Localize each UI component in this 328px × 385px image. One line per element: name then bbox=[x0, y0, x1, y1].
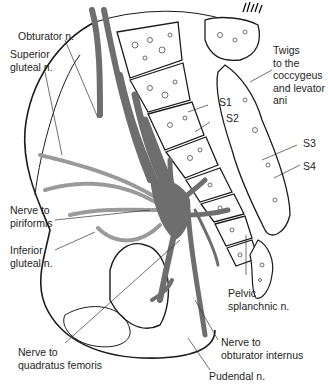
label-inferior-gluteal-nerve: Inferior gluteal n. bbox=[10, 244, 53, 269]
label-twigs-coccygeus-levator-ani: Twigs to the coccygeus and levator ani bbox=[273, 44, 325, 107]
label-nerve-to-quadratus-femoris: Nerve to quadratus femoris bbox=[18, 346, 102, 371]
label-obturator-nerve: Obturator n. bbox=[18, 30, 74, 43]
label-pudendal-nerve: Pudendal n. bbox=[209, 370, 265, 383]
label-s2: S2 bbox=[226, 112, 239, 125]
label-s1: S1 bbox=[219, 96, 232, 109]
label-superior-gluteal-nerve: Superior gluteal n. bbox=[10, 48, 53, 73]
label-nerve-to-piriformis: Nerve to piriformis bbox=[10, 204, 53, 229]
label-nerve-to-obturator-internus: Nerve to obturator internus bbox=[221, 336, 303, 361]
coccyx-lateral bbox=[205, 18, 259, 61]
ischial-region bbox=[64, 307, 130, 347]
label-s4: S4 bbox=[303, 160, 316, 173]
label-pelvic-splanchnic-nerve: Pelvic splanchnic n. bbox=[228, 287, 289, 312]
label-s3: S3 bbox=[303, 137, 316, 150]
fiber-tuft bbox=[243, 2, 262, 13]
obturator-foramen bbox=[110, 244, 168, 328]
sacral-plexus-diagram: Obturator n. Superior gluteal n. Twigs t… bbox=[0, 0, 328, 385]
